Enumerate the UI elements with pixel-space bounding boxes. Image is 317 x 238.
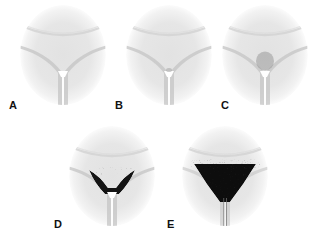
- panel-B-image: [126, 5, 212, 105]
- panel-C: [222, 5, 308, 105]
- panel-A: [20, 5, 106, 105]
- panel-label-B: B: [115, 100, 123, 111]
- figure-canvas: A: [0, 0, 317, 238]
- panel-A-image: [20, 5, 106, 105]
- panel-E-image: [182, 126, 268, 226]
- panel-B: [126, 5, 212, 105]
- panel-C-image: [222, 5, 308, 105]
- panel-label-C: C: [221, 100, 229, 111]
- panel-D-image: [69, 126, 155, 226]
- panel-label-A: A: [9, 100, 17, 111]
- panel-label-D: D: [54, 219, 62, 230]
- panel-E: [182, 126, 268, 226]
- panel-D: [69, 126, 155, 226]
- panel-label-E: E: [167, 219, 175, 230]
